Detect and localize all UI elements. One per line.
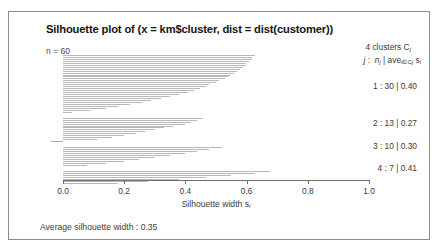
- silhouette-bar: [63, 129, 155, 130]
- silhouette-bar: [63, 73, 234, 74]
- silhouette-bar: [63, 153, 185, 154]
- silhouette-bar: [63, 110, 90, 111]
- silhouette-bar: [63, 135, 124, 136]
- silhouette-bar: [63, 127, 164, 128]
- legend-header-clusters-text: 4 clusters C: [365, 42, 409, 52]
- silhouette-bar: [63, 59, 252, 60]
- silhouette-bar: [63, 112, 72, 113]
- silhouette-bar: [63, 120, 197, 121]
- silhouette-bar: [63, 100, 151, 101]
- x-axis-title-subscript: i: [249, 202, 250, 209]
- x-axis-tick-label: 0.0: [57, 186, 69, 196]
- silhouette-bar: [63, 149, 209, 150]
- silhouette-bar: [63, 102, 142, 103]
- silhouette-bar: [63, 175, 231, 176]
- silhouette-bar: [63, 75, 231, 76]
- x-axis-tick-label: 1.0: [363, 186, 375, 196]
- silhouette-bar: [51, 141, 63, 142]
- silhouette-bar: [63, 177, 206, 178]
- silhouette-bar: [63, 55, 255, 56]
- legend-header-clusters-subscript: j: [410, 46, 411, 52]
- x-axis-tick: [247, 180, 248, 184]
- silhouette-bar: [63, 82, 216, 83]
- x-axis-tick-label: 0.2: [118, 186, 130, 196]
- silhouette-bar: [63, 139, 97, 140]
- page-title: Silhouette plot of (x = km$cluster, dist…: [46, 23, 333, 35]
- silhouette-bar: [63, 65, 246, 66]
- silhouette-bar: [63, 133, 136, 134]
- x-axis-tick: [308, 180, 309, 184]
- silhouette-bar: [63, 173, 255, 174]
- silhouette-bar: [63, 84, 209, 85]
- silhouette-bar: [63, 171, 270, 172]
- silhouette-bar: [63, 131, 145, 132]
- silhouette-bar: [63, 159, 139, 160]
- silhouette-bar: [63, 122, 191, 123]
- x-axis-title: Silhouette width si: [182, 199, 251, 209]
- silhouette-bar: [63, 165, 87, 166]
- silhouette-bar: [63, 118, 203, 119]
- legend-col-n-sub: j: [379, 60, 380, 66]
- silhouette-bar: [63, 57, 252, 58]
- silhouette-bar: [63, 183, 118, 184]
- silhouette-bar: [63, 106, 118, 107]
- silhouette-bar: [63, 96, 170, 97]
- silhouette-plot-figure: Silhouette plot of (x = km$cluster, dist…: [0, 0, 439, 249]
- silhouette-bar: [63, 63, 246, 64]
- x-axis-tick: [369, 180, 370, 184]
- legend-col-s-sub: i: [420, 60, 421, 66]
- silhouette-bar: [63, 98, 161, 99]
- silhouette-bar: [63, 88, 200, 89]
- silhouette-bar: [63, 69, 240, 70]
- silhouette-bar: [63, 155, 170, 156]
- x-axis-title-text: Silhouette width s: [182, 199, 249, 209]
- x-axis-tick-label: 0.6: [241, 186, 253, 196]
- silhouette-bar: [63, 137, 112, 138]
- average-silhouette-width-label: Average silhouette width : 0.35: [40, 222, 157, 232]
- x-axis-tick-label: 0.8: [302, 186, 314, 196]
- x-axis-tick-label: 0.4: [180, 186, 192, 196]
- silhouette-bar: [63, 71, 237, 72]
- silhouette-bar: [63, 151, 197, 152]
- x-axis-tick: [185, 180, 186, 184]
- silhouette-bar: [63, 90, 194, 91]
- silhouette-bar: [63, 126, 173, 127]
- silhouette-bar: [63, 163, 106, 164]
- silhouette-bar: [63, 104, 130, 105]
- silhouette-bar: [63, 92, 188, 93]
- silhouette-bar: [63, 108, 106, 109]
- silhouette-bar: [63, 76, 228, 77]
- silhouette-bars-panel: [63, 55, 368, 179]
- x-axis-tick: [63, 180, 64, 184]
- legend-header-clusters: 4 clusters Cj: [299, 42, 423, 55]
- silhouette-bar: [63, 161, 124, 162]
- silhouette-bar: [63, 78, 225, 79]
- silhouette-bar: [63, 86, 206, 87]
- x-axis-line: [63, 180, 369, 181]
- silhouette-bar: [63, 124, 185, 125]
- legend-col-ave-sub: i∈Cj: [401, 60, 413, 66]
- silhouette-bar: [63, 157, 155, 158]
- x-axis-tick: [124, 180, 125, 184]
- silhouette-bar: [63, 147, 222, 148]
- silhouette-bar: [63, 67, 243, 68]
- silhouette-bar: [63, 80, 219, 81]
- silhouette-bar: [63, 94, 179, 95]
- silhouette-bar: [63, 61, 249, 62]
